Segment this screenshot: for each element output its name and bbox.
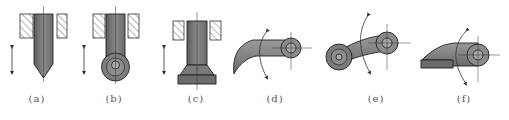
figure-e-roller-oscillating-follower	[326, 15, 411, 73]
figure-c-flat-faced-follower	[164, 12, 221, 90]
figure-label-e: (e)	[368, 93, 385, 104]
figure-f-flat-faced-oscillating-follower	[421, 30, 500, 84]
figure-label-b: (b)	[105, 93, 122, 104]
figure-label-a: (a)	[29, 93, 46, 104]
figure-a-pointed-follower	[12, 6, 67, 82]
figure-label-f: (f)	[457, 93, 472, 104]
figure-b-roller-follower	[84, 6, 139, 84]
cam-follower-diagram: (a) (b) (c) (d) (e) (f)	[0, 0, 509, 120]
figure-label-d: (d)	[266, 93, 283, 104]
figure-label-c: (c)	[188, 93, 204, 104]
figure-d-pointed-oscillating-follower	[234, 31, 312, 78]
